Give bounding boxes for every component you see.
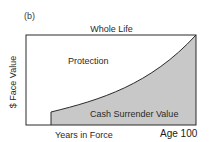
cash-surrender-value-label: Cash Surrender Value <box>90 110 178 119</box>
chart-title: Whole Life <box>0 25 211 34</box>
x-axis-label: Years in Force <box>55 131 113 140</box>
x-axis-end-label: Age 100 <box>160 129 197 139</box>
protection-region-label: Protection <box>68 57 109 66</box>
y-axis-label: $ Face Value <box>9 56 18 108</box>
chart-plot <box>0 0 211 142</box>
panel-label: (b) <box>24 12 35 21</box>
